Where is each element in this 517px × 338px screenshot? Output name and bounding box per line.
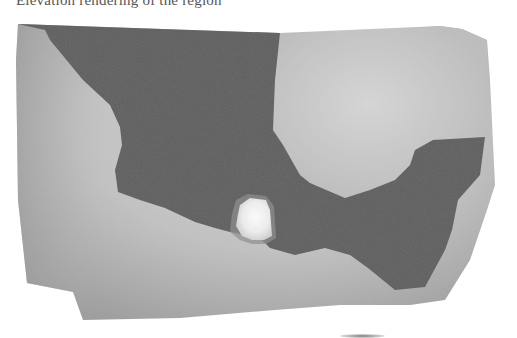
highlight-peak [236, 198, 272, 240]
bottom-shadow [340, 334, 385, 338]
relief-map [0, 0, 517, 338]
